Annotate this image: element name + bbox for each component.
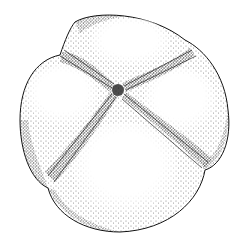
illustration-canvas [0,0,243,244]
four-lobed-object-drawing [0,0,243,244]
lobe-top [90,18,170,66]
